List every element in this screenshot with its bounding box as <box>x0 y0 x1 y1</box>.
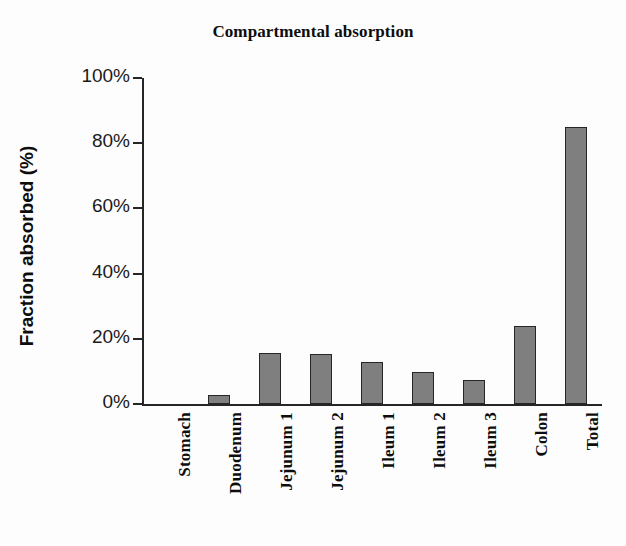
chart-title: Compartmental absorption <box>0 22 626 42</box>
bar-slot <box>398 78 449 404</box>
y-axis-tick-label: 100% <box>60 65 130 87</box>
plot-area <box>142 78 602 404</box>
y-axis-tick <box>133 142 142 144</box>
x-axis-tick-label: Total <box>583 412 603 450</box>
y-axis-tick <box>133 338 142 340</box>
bar-slot <box>142 78 193 404</box>
x-axis-tick-label: Duodenum <box>226 412 246 494</box>
y-axis-tick <box>133 207 142 209</box>
y-axis-tick-label: 40% <box>60 261 130 283</box>
bar-slot <box>193 78 244 404</box>
chart-figure: Compartmental absorption Fraction absorb… <box>0 0 626 546</box>
x-axis-line <box>142 404 602 406</box>
bar <box>259 353 281 404</box>
x-axis-tick-label: Ileum 2 <box>430 412 450 469</box>
bar <box>208 395 230 404</box>
bar <box>310 354 332 404</box>
x-axis-tick-label: Ileum 1 <box>379 412 399 469</box>
bar-series <box>142 78 602 404</box>
x-axis-tick-label: Jejunum 2 <box>328 412 348 491</box>
x-axis-tick-label: Jejunum 1 <box>277 412 297 491</box>
y-axis-tick-label: 80% <box>60 130 130 152</box>
bar <box>361 362 383 404</box>
bar <box>412 372 434 404</box>
x-axis-tick-label: Colon <box>532 412 552 456</box>
y-axis-tick <box>133 403 142 405</box>
bar-slot <box>346 78 397 404</box>
y-axis-tick-label: 20% <box>60 326 130 348</box>
bar <box>463 380 485 404</box>
bar-slot <box>551 78 602 404</box>
x-axis-tick-label: Ileum 3 <box>481 412 501 469</box>
y-axis-tick-label: 0% <box>60 391 130 413</box>
bar <box>514 326 536 404</box>
y-axis-tick-label: 60% <box>60 195 130 217</box>
bar-slot <box>449 78 500 404</box>
y-axis-tick <box>133 77 142 79</box>
y-axis-tick <box>133 273 142 275</box>
y-axis-title: Fraction absorbed (%) <box>16 126 38 366</box>
bar <box>565 127 587 404</box>
bar-slot <box>295 78 346 404</box>
bar-slot <box>244 78 295 404</box>
bar-slot <box>500 78 551 404</box>
x-axis-tick-label: Stomach <box>175 412 195 477</box>
